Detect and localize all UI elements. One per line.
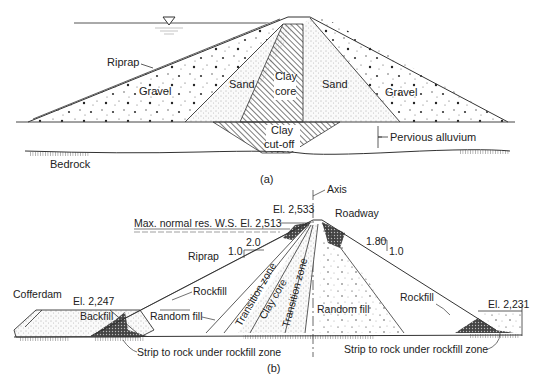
crest-elevation-label: El. 2,533 [273,203,315,215]
random-fill-downstream-label: Random fill [317,303,370,315]
upstream-slope-h: 2.0 [246,236,261,248]
riprap-label-b: Riprap [188,250,219,262]
strip-to-rock-downstream-label: Strip to rock under rockfill zone [344,343,488,355]
clay-core-label-line2: core [275,85,296,97]
riprap-label: Riprap [107,56,139,68]
downstream-slope-v: 1.0 [389,245,404,257]
random-fill-upstream-label: Random fill [150,310,203,322]
sand-downstream-label: Sand [322,78,348,90]
downstream-elevation-label: El. 2,231 [488,298,530,310]
dam-sections-diagram: Riprap Gravel Sand Clay core Sand Gravel… [0,0,544,387]
cofferdam-label: Cofferdam [13,288,62,300]
upstream-slope-v: 1.0 [228,245,243,257]
water-surface-triangle-icon [155,17,183,34]
bedrock-hatch-left [30,152,90,156]
rockfill-upstream-label: Rockfill [193,285,227,297]
figure-b-caption: (b) [267,362,280,374]
clay-cutoff-label-line1: Clay [271,124,294,136]
bedrock-label: Bedrock [50,158,91,170]
cofferdam-elevation-label: El. 2,247 [73,295,115,307]
downstream-slope-h: 1.80 [366,235,387,247]
clay-cutoff-label-line2: cut-off [264,138,295,150]
figure-a-homogeneous-earth-dam: Riprap Gravel Sand Clay core Sand Gravel… [16,17,515,185]
roadway-label: Roadway [335,207,380,219]
strip-to-rock-upstream-label: Strip to rock under rockfill zone [137,346,281,358]
bedrock-hatch-right [460,150,510,154]
figure-a-caption: (a) [260,173,273,185]
max-ws-label: Max. normal res. W.S. El. 2,513 [134,217,282,229]
figure-b-rockfill-dam: Axis [13,183,530,374]
pervious-alluvium-label: Pervious alluvium [390,131,476,143]
clay-core-label-line1: Clay [275,70,298,82]
rockfill-downstream-label: Rockfill [400,291,434,303]
gravel-downstream-label: Gravel [385,86,417,98]
backfill-label: Backfill [80,310,113,322]
gravel-upstream-label: Gravel [139,85,171,97]
axis-label: Axis [327,183,347,195]
sand-upstream-label: Sand [229,78,255,90]
